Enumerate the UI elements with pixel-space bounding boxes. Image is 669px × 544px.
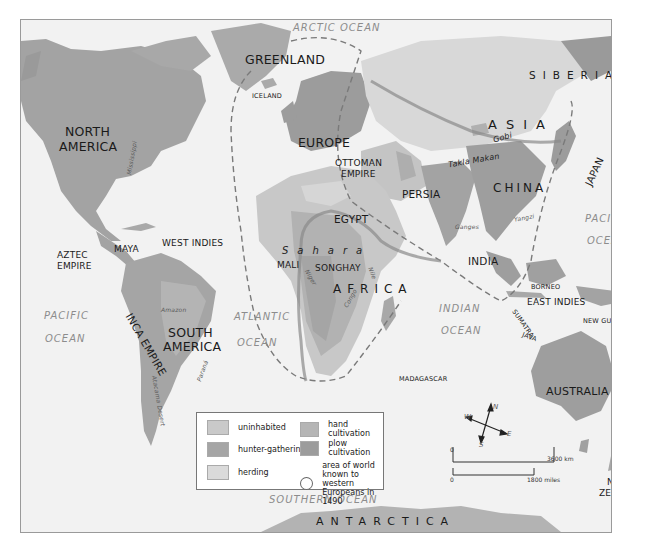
aztec-empire-label-2: EMPIRE [57,261,92,271]
borneo-label: BORNEO [531,283,560,291]
legend-swatch-hunter-gathering [207,442,229,457]
compass-s-label: S [479,441,484,449]
aztec-empire-label-1: AZTEC [57,250,88,260]
legend-swatch-uninhabited [207,420,229,435]
new-zealand-label-2: ZEALAND [599,488,612,498]
pacific-ocean-west-label-2: OCEAN [45,333,86,344]
ganges-river-label: Ganges [455,223,479,230]
legend-swatch-herding [207,465,229,480]
compass-n-label: N [493,403,498,411]
egypt-label: EGYPT [334,213,368,225]
south-america-label-2: AMERICA [163,339,221,354]
ottoman-empire-label-2: EMPIRE [341,169,376,179]
legend-oval-known-world-icon [300,477,313,490]
sahara-label: Sahara [282,245,371,256]
legend-label: hunter-gathering [238,445,306,454]
antarctica-label: ANTARCTICA [316,515,455,528]
mali-label: MALI [277,260,299,270]
songhay-label: SONGHAY [315,263,361,273]
legend-item-herding: herding [207,465,269,480]
legend-label: plow cultivation [328,439,383,457]
legend-item-known-world: area of world known to western Europeans… [300,461,383,506]
legend-label: area of world known to western Europeans… [322,461,383,506]
greenland-label: GREENLAND [245,52,325,67]
europe-label: EUROPE [298,135,350,150]
persia-label: PERSIA [402,188,440,200]
legend-swatch-plow-cultivation [300,441,319,456]
madagascar-label: MADAGASCAR [399,375,447,383]
asia-label: ASIA [488,117,554,132]
indian-ocean-label-1: INDIAN [439,303,480,314]
legend-item-uninhabited: uninhabited [207,420,286,435]
legend-item-hunter-gathering: hunter-gathering [207,442,306,457]
legend-label: uninhabited [238,423,286,432]
india-label: INDIA [468,255,498,267]
arctic-ocean-label: ARCTIC OCEAN [293,22,380,33]
west-indies-label: WEST INDIES [162,238,223,248]
south-america-label-1: SOUTH [168,325,213,340]
compass-w-label: W [464,413,471,421]
amazon-river-label: Amazon [161,306,186,313]
iceland-label: ICELAND [252,92,282,100]
pacific-ocean-east-label-2: OCEAN [587,235,612,246]
east-indies-label: EAST INDIES [527,297,586,307]
atlantic-ocean-label-2: OCEAN [237,337,278,348]
maya-label: MAYA [114,244,139,254]
new-zealand-label-1: NEW [607,477,612,487]
pacific-ocean-west-label-1: PACIFIC [44,310,89,321]
atlantic-ocean-label-1: ATLANTIC [234,311,290,322]
scale-mi-start: 0 [450,476,454,483]
map-legend: uninhabited hunter-gathering herding han… [196,412,384,490]
ottoman-empire-label-1: OTTOMAN [335,158,382,168]
legend-item-hand-cultivation: hand cultivation [300,420,383,438]
north-america-label-1: NORTH [65,124,110,139]
north-america-label-2: AMERICA [59,139,117,154]
legend-label: hand cultivation [328,420,383,438]
siberia-label: SIBERIA [529,69,612,81]
legend-known-world-line-1: area of world known to [322,461,383,479]
legend-known-world-line-2: western Europeans in 1490 [322,479,383,506]
scale-km-start: 0 [450,446,454,453]
africa-label: AFRICA [333,282,413,296]
new-guinea-label: NEW GUINEA [583,317,612,325]
china-label: CHINA [493,181,546,195]
compass-e-label: E [507,430,512,438]
legend-label: herding [238,468,269,477]
australia-label: AUSTRALIA [546,384,609,399]
scale-mi-end: 1800 miles [527,476,560,483]
indian-ocean-label-2: OCEAN [441,325,482,336]
scale-km-end: 3600 km [547,455,574,462]
legend-swatch-hand-cultivation [300,422,319,437]
legend-item-plow-cultivation: plow cultivation [300,439,383,457]
pacific-ocean-east-label-1: PACIFIC [585,213,612,224]
